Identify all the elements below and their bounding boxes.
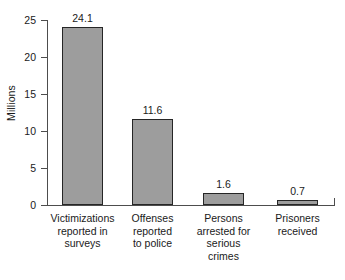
bar-1 [132, 119, 173, 205]
x-category-label-line: received [256, 225, 340, 238]
bar-chart: Millions 0 5 10 15 20 25 24.1 11.6 1.6 0… [0, 0, 345, 280]
x-category-label-line: arrested for [182, 225, 266, 238]
x-axis-line [47, 205, 335, 206]
y-tick-label-2: 10 [0, 126, 36, 137]
x-category-label-line: Persons [182, 212, 266, 225]
bar-value-3: 0.7 [268, 186, 328, 197]
y-tick-1 [41, 168, 47, 169]
bar-0 [62, 27, 103, 205]
x-axis-end-tick [334, 198, 335, 206]
y-tick-4 [41, 57, 47, 58]
y-tick-label-1: 5 [0, 163, 36, 174]
y-tick-3 [41, 94, 47, 95]
x-category-label-2: Personsarrested forseriouscrimes [182, 212, 266, 262]
y-tick-2 [41, 131, 47, 132]
bar-2 [203, 193, 244, 205]
y-tick-label-4: 20 [0, 52, 36, 63]
bar-value-2: 1.6 [194, 179, 254, 190]
bar-value-1: 11.6 [123, 105, 183, 116]
x-category-label-3: Prisonersreceived [256, 212, 340, 237]
y-tick-5 [41, 20, 47, 21]
y-tick-label-3: 15 [0, 89, 36, 100]
x-category-label-line: Prisoners [256, 212, 340, 225]
bar-value-0: 24.1 [53, 13, 113, 24]
y-axis-line [47, 20, 48, 206]
x-category-label-line: crimes [182, 250, 266, 263]
bar-3 [277, 200, 318, 205]
x-category-label-line: serious [182, 237, 266, 250]
y-tick-label-5: 25 [0, 15, 36, 26]
y-tick-label-0: 0 [0, 200, 36, 211]
y-tick-0 [41, 205, 47, 206]
